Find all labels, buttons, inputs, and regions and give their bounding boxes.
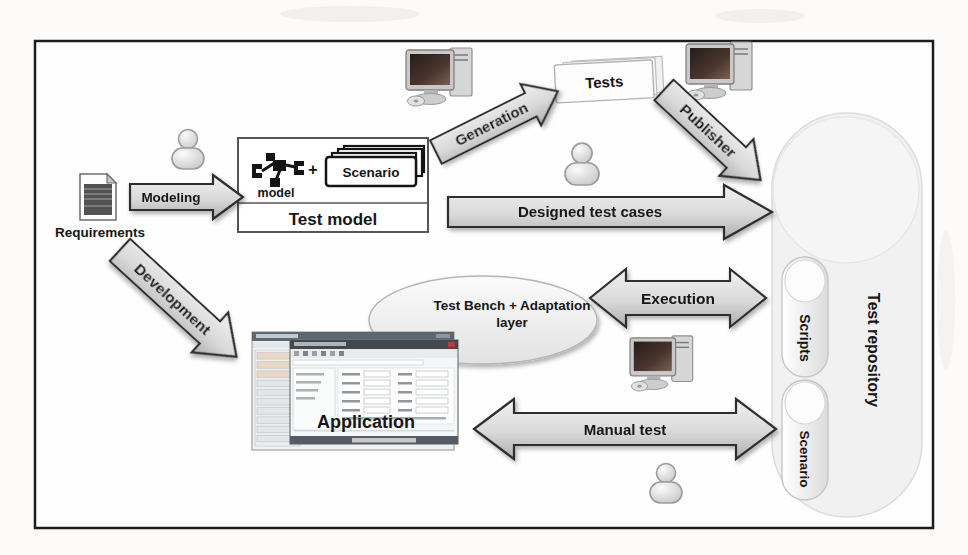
requirements-document-icon [80, 174, 116, 220]
scripts-pill: Scripts [782, 257, 828, 377]
execution-arrow-label: Execution [641, 290, 715, 307]
manual-test-arrow-label: Manual test [584, 421, 667, 438]
scenario-card-stack: Scenario [326, 146, 424, 186]
scenario-card-label: Scenario [342, 165, 399, 180]
scenario-pill-label: Scenario [797, 430, 812, 487]
tests-label: Tests [585, 72, 624, 91]
scenario-pill-top [785, 382, 825, 424]
repository-title: Test repository [865, 293, 882, 408]
close-icon [448, 342, 455, 347]
scenario-pill: Scenario [782, 380, 828, 500]
application-screenshot [252, 332, 458, 450]
scripts-pill-top [785, 260, 825, 302]
tests-stack-icon: Tests [554, 56, 664, 103]
test-process-diagram: Test repository Scripts Scenario Require… [0, 0, 968, 555]
repository-top-circle [773, 117, 919, 263]
test-model-box: model + Scenario Test model [238, 138, 428, 232]
modeling-arrow-label: Modeling [141, 190, 200, 205]
application-label: Application [317, 412, 415, 432]
scripts-pill-label: Scripts [797, 314, 813, 362]
test-bench-label-line1: Test Bench + Adaptation [433, 298, 590, 313]
test-bench-label-line2: layer [496, 315, 528, 330]
scanned-figure-page: Test repository Scripts Scenario Require… [0, 0, 968, 555]
test-repository-capsule: Test repository Scripts Scenario [772, 113, 922, 517]
plus-sign: + [308, 161, 317, 178]
requirements-label: Requirements [55, 225, 145, 240]
model-caption: model [258, 186, 295, 200]
designed-test-cases-arrow-label: Designed test cases [518, 203, 662, 220]
test-model-title: Test model [289, 210, 377, 229]
